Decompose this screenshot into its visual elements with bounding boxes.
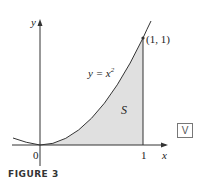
region-label: S (121, 104, 127, 116)
region-s (40, 38, 143, 145)
figure-caption: FIGURE 3 (8, 169, 59, 179)
y-axis-label: y (31, 17, 36, 28)
point-label: (1, 1) (146, 34, 170, 45)
badge-icon: V (177, 123, 193, 138)
curve-label: y = x2 (88, 67, 114, 79)
x-axis-arrow-icon (161, 143, 168, 148)
point-1-1 (141, 36, 144, 39)
origin-label: 0 (33, 150, 39, 161)
y-axis-arrow-icon (38, 19, 43, 26)
tick-x-1-label: 1 (141, 150, 147, 161)
graph (0, 0, 202, 188)
x-axis-label: x (162, 150, 167, 161)
